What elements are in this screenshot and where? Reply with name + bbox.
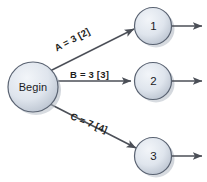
diagram-canvas: Begin 1 2 3 A = 3 [2] B = 3 [3] C = 7 [4…: [0, 0, 207, 182]
node-1[interactable]: [135, 8, 172, 45]
diagram-graphics: [0, 0, 207, 182]
node-3[interactable]: [135, 138, 172, 175]
edge-a-line: [50, 29, 134, 71]
begin-node[interactable]: [8, 62, 58, 112]
node-2[interactable]: [135, 63, 172, 100]
edge-c-line: [50, 104, 136, 148]
